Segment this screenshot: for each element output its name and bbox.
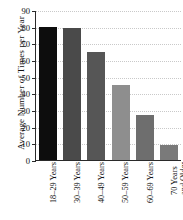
y-tick-label: 70 [21, 40, 30, 49]
bar [136, 115, 154, 160]
y-tick-label: 0 [26, 157, 30, 166]
x-category-label-line: 60–69 Years [146, 162, 155, 203]
x-axis-category-labels: 18–29 Years30–39 Years40–49 Years50–59 Y… [35, 162, 181, 220]
y-tick-label: 30 [21, 107, 30, 116]
x-category-label: 60–69 Years [147, 162, 156, 203]
y-tick-label: 90 [21, 7, 30, 16]
y-tick-label: 50 [21, 73, 30, 82]
bar [87, 52, 105, 160]
y-tick-label: 80 [21, 23, 30, 32]
y-tick-label: 10 [21, 140, 30, 149]
plot-area: 0102030405060708090 [35, 11, 181, 161]
x-category-label: 70 Yearsand Older [171, 162, 183, 195]
x-category-label-line: 40–49 Years [97, 162, 106, 203]
x-axis-line [35, 160, 181, 161]
x-category-label-line: 18–29 Years [49, 162, 58, 203]
bar [39, 27, 57, 160]
bar [160, 145, 178, 160]
x-category-label-line: and Older [180, 162, 183, 195]
y-tick-label: 20 [21, 123, 30, 132]
y-tick-label: 60 [21, 57, 30, 66]
x-category-label: 40–49 Years [98, 162, 107, 203]
bar [63, 28, 81, 160]
x-category-label: 50–59 Years [122, 162, 131, 203]
x-category-label: 30–39 Years [74, 162, 83, 203]
x-category-label-line: 50–59 Years [121, 162, 130, 203]
bar-chart-figure: Average Number of Times per Year 0102030… [0, 0, 183, 220]
x-category-label-line: 30–39 Years [73, 162, 82, 203]
bar [112, 85, 130, 160]
y-tick-label: 40 [21, 90, 30, 99]
x-category-label: 18–29 Years [50, 162, 59, 203]
bar-series [36, 11, 181, 160]
